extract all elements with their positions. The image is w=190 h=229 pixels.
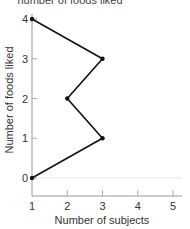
data-point	[30, 17, 34, 21]
y-tick-label: 3	[22, 53, 28, 65]
y-tick-label: 1	[22, 132, 28, 144]
plot-area: 01234 12345	[22, 13, 182, 212]
data-points	[30, 17, 105, 180]
y-axis-ticks: 01234	[22, 13, 37, 184]
chart-title: number of foods liked	[17, 0, 122, 6]
y-tick-label: 2	[22, 93, 28, 105]
x-tick-label: 5	[170, 200, 176, 212]
x-tick-label: 4	[135, 200, 141, 212]
x-tick-label: 1	[29, 200, 35, 212]
data-point	[30, 176, 34, 180]
x-axis-title: Number of subjects	[55, 214, 150, 226]
data-point	[65, 96, 69, 100]
x-tick-label: 3	[99, 200, 105, 212]
x-axis-ticks: 12345	[29, 190, 176, 212]
frequency-polygon-chart: number of foods liked 01234 12345 Number…	[0, 0, 190, 229]
y-tick-label: 4	[22, 13, 28, 25]
data-point	[100, 136, 104, 140]
data-point	[100, 57, 104, 61]
y-axis-title: Number of foods liked	[3, 47, 15, 154]
y-tick-label: 0	[22, 172, 28, 184]
x-tick-label: 2	[64, 200, 70, 212]
